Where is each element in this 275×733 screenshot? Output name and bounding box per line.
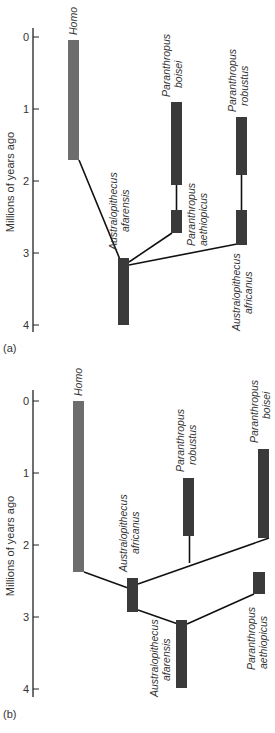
bar-robustus-b	[183, 478, 194, 536]
y-ticks-b	[33, 401, 39, 689]
bar-boisei-b	[258, 449, 269, 538]
tick-label-2: 2	[23, 175, 29, 187]
tick-label-0: 0	[23, 395, 29, 407]
tick-label-3: 3	[23, 247, 29, 259]
label-robustus-b: Paranthropus robustus	[174, 408, 198, 472]
y-ticks-a	[33, 37, 39, 325]
label-aethiopicus-b: Paranthropus aethiopicus	[245, 606, 269, 670]
svg-text:aethiopicus: aethiopicus	[197, 192, 209, 246]
tick-label-4: 4	[23, 683, 29, 695]
bar-africanus-a	[236, 210, 247, 245]
svg-text:afarensis: afarensis	[160, 638, 172, 681]
branch-lines-a	[79, 160, 242, 265]
label-afarensis-b: Australopithecus afarensis	[148, 619, 172, 698]
svg-text:Australopithecus: Australopithecus	[230, 253, 242, 332]
bar-homo-b	[73, 401, 84, 572]
tick-label-2: 2	[23, 539, 29, 551]
label-afarensis-a: Australopithecus afarensis	[107, 172, 131, 251]
svg-text:boisei: boisei	[172, 60, 184, 88]
svg-text:afarensis: afarensis	[119, 189, 131, 232]
tick-label-4: 4	[23, 319, 29, 331]
tick-label-1: 1	[23, 467, 29, 479]
svg-text:Paranthropus: Paranthropus	[160, 33, 172, 97]
svg-text:Paranthropus: Paranthropus	[248, 379, 260, 443]
bar-afarensis-b	[176, 620, 187, 688]
panel-b: 0 1 2 3 4 Millions of years ago (b) Homo…	[3, 368, 272, 720]
label-homo-b: Homo	[72, 368, 84, 396]
svg-text:africanus: africanus	[129, 511, 141, 554]
svg-text:africanus: africanus	[242, 271, 254, 314]
phylogeny-figure: 0 1 2 3 4 Millions of years ago (a) Homo…	[0, 0, 275, 733]
tick-label-3: 3	[23, 611, 29, 623]
svg-text:Homo: Homo	[72, 368, 84, 396]
label-robustus-a: Paranthropus robustus	[226, 48, 250, 112]
label-africanus-b: Australopithecus africanus	[117, 494, 141, 573]
svg-text:Homo: Homo	[67, 7, 79, 35]
svg-text:robustus: robustus	[186, 424, 198, 465]
label-africanus-a: Australopithecus africanus	[230, 253, 254, 332]
svg-text:Australopithecus: Australopithecus	[148, 619, 160, 698]
svg-text:Paranthropus: Paranthropus	[226, 48, 238, 112]
label-boisei-b: Paranthropus boisei	[248, 379, 272, 443]
svg-text:Australopithecus: Australopithecus	[107, 172, 119, 251]
svg-text:Paranthropus: Paranthropus	[185, 182, 197, 246]
bar-homo-a	[68, 40, 79, 160]
svg-text:Paranthropus: Paranthropus	[174, 408, 186, 472]
tick-label-1: 1	[23, 103, 29, 115]
y-axis-title-b: Millions of years ago	[4, 496, 16, 596]
bar-africanus-b	[127, 578, 138, 612]
panel-label-b: (b)	[3, 708, 16, 720]
svg-text:Paranthropus: Paranthropus	[245, 606, 257, 670]
bar-aethiopicus-b	[253, 572, 265, 594]
svg-text:aethiopicus: aethiopicus	[257, 615, 269, 669]
panel-a: 0 1 2 3 4 Millions of years ago (a) Homo…	[3, 7, 254, 354]
bar-robustus-a	[236, 117, 247, 175]
bar-aethiopicus-a	[171, 210, 182, 233]
y-axis-title-a: Millions of years ago	[4, 132, 16, 232]
label-homo-a: Homo	[67, 7, 79, 35]
svg-text:Australopithecus: Australopithecus	[117, 494, 129, 573]
tick-label-0: 0	[23, 31, 29, 43]
bar-boisei-a	[171, 102, 182, 185]
label-boisei-a: Paranthropus boisei	[160, 33, 184, 97]
branch-lines-b	[84, 536, 269, 624]
svg-text:robustus: robustus	[238, 65, 250, 106]
label-aethiopicus-a: Paranthropus aethiopicus	[185, 182, 209, 246]
svg-text:boisei: boisei	[260, 391, 272, 419]
panel-label-a: (a)	[3, 342, 16, 354]
bar-afarensis-a	[118, 258, 129, 325]
